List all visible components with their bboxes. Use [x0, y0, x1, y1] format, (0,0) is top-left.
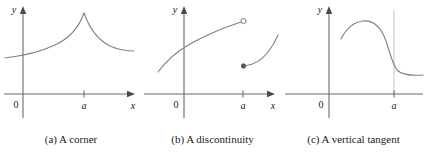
- x-axis-arrow-a: [127, 91, 135, 97]
- figure-panel-a: y x 0 a (a) A corner: [0, 0, 142, 152]
- origin-label-b: 0: [174, 99, 179, 110]
- discontinuity-right-branch: [244, 35, 278, 66]
- y-axis-arrow-c: [326, 6, 332, 14]
- corner-curve-right: [84, 13, 134, 51]
- filled-circle-marker: [241, 64, 245, 68]
- x-tick-label-b: a: [241, 100, 246, 111]
- plot-a: y x 0 a: [0, 0, 142, 124]
- plot-c: y 0 a: [283, 0, 424, 124]
- plot-b: y x 0 a: [142, 0, 283, 124]
- origin-label-c: 0: [319, 99, 324, 110]
- x-axis-label-b: x: [270, 100, 276, 111]
- caption-b: (b) A discontinuity: [142, 133, 283, 146]
- y-axis-arrow-a: [20, 6, 26, 14]
- discontinuity-left-branch: [158, 22, 241, 72]
- y-axis-label-a: y: [11, 4, 17, 15]
- y-axis-label-b: y: [172, 4, 178, 15]
- open-circle-marker: [241, 18, 246, 23]
- origin-label-a: 0: [14, 99, 19, 110]
- caption-a: (a) A corner: [0, 133, 142, 146]
- x-axis-arrow-b: [267, 91, 275, 97]
- x-tick-label-c: a: [392, 100, 397, 111]
- x-axis-label-a: x: [130, 100, 136, 111]
- figure-panel-c: y 0 a (c) A vertical tangent: [283, 0, 424, 152]
- y-axis-arrow-b: [181, 6, 187, 14]
- x-tick-label-a: a: [82, 100, 87, 111]
- figure-panel-b: y x 0 a (b) A discontinuity: [142, 0, 283, 152]
- vertical-tangent-curve: [341, 21, 423, 75]
- caption-c: (c) A vertical tangent: [283, 133, 424, 146]
- corner-curve-left: [5, 13, 84, 58]
- figure-row: y x 0 a (a) A corner y x: [0, 0, 424, 152]
- y-axis-label-c: y: [317, 4, 323, 15]
